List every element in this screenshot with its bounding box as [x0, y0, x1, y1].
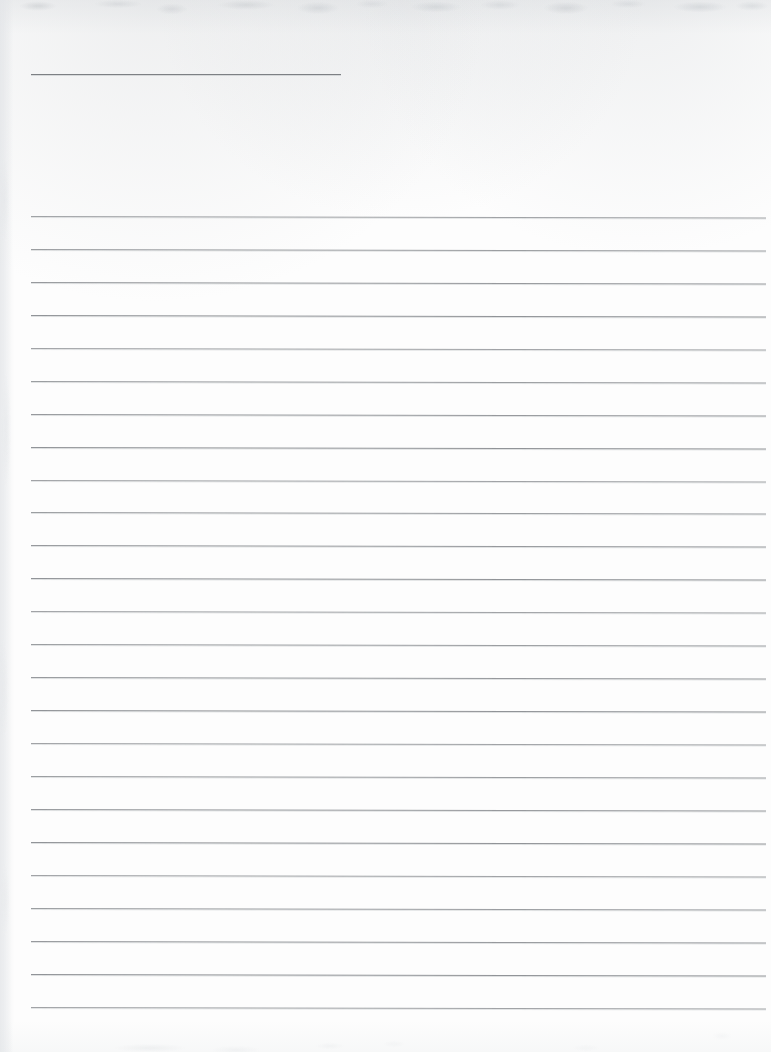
ruled-line [31, 414, 766, 417]
ruled-line [31, 743, 766, 746]
ruled-line [31, 644, 766, 647]
ruled-line [31, 282, 766, 285]
ruled-line [31, 447, 766, 450]
ruled-line [31, 578, 766, 581]
ruled-line [31, 1007, 766, 1010]
ruled-line [31, 512, 766, 515]
ruled-line [31, 381, 766, 384]
ruled-line [31, 842, 766, 845]
ruled-line [31, 908, 766, 911]
ruled-line [31, 249, 766, 252]
ruled-line [31, 348, 766, 351]
ruled-line [31, 216, 766, 219]
ruled-line [31, 677, 766, 680]
ruled-line [31, 809, 766, 812]
ruled-line [31, 974, 766, 977]
ruled-line [31, 611, 766, 614]
ruled-line [31, 875, 766, 878]
ruled-line [31, 710, 766, 713]
ruled-line [31, 480, 766, 483]
ruled-lines-layer [0, 0, 771, 1052]
ruled-line [31, 941, 766, 944]
ruled-line [31, 776, 766, 779]
header-rule [31, 74, 341, 75]
scanned-page [0, 0, 771, 1052]
ruled-line [31, 545, 766, 548]
ruled-line [31, 315, 766, 318]
